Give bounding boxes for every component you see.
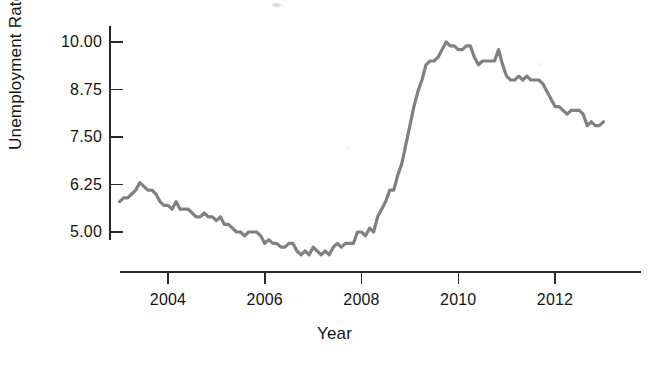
y-tick-label: 8.75 <box>20 81 102 99</box>
y-tick-label: 5.00 <box>20 223 102 241</box>
scan-artifact-speck <box>539 63 542 66</box>
y-tick-label: 6.25 <box>20 176 102 194</box>
scan-artifact-speck <box>346 146 349 149</box>
y-tick-marks <box>110 42 123 232</box>
x-tick-label: 2006 <box>247 291 283 309</box>
x-tick-label: 2012 <box>537 291 573 309</box>
unemployment-rate-chart: 5.006.257.508.7510.00 200420062008201020… <box>0 0 669 369</box>
y-tick-label: 10.00 <box>20 33 102 51</box>
unemployment-rate-line <box>120 42 604 255</box>
axes-group <box>110 26 641 272</box>
x-tick-marks <box>168 272 555 284</box>
y-tick-label: 7.50 <box>20 128 102 146</box>
scan-artifact-speck <box>272 3 281 7</box>
x-tick-label: 2010 <box>440 291 476 309</box>
x-tick-label: 2008 <box>343 291 379 309</box>
y-axis-label: Unemployment Rate <box>6 0 26 150</box>
x-tick-label: 2004 <box>150 291 186 309</box>
x-axis-label: Year <box>0 324 669 344</box>
